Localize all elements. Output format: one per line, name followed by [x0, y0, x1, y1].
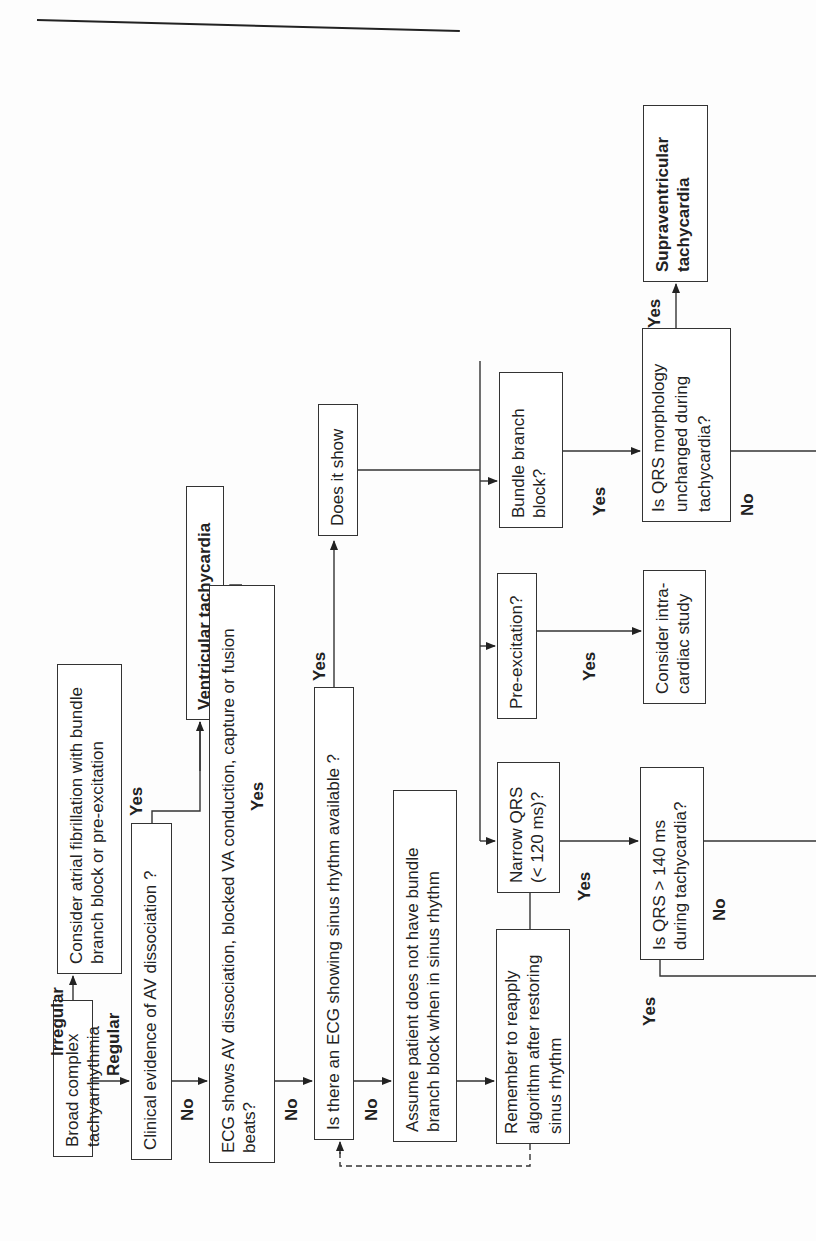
qrs-morph-node: Is QRS morphology unchanged during tachy…	[642, 328, 731, 522]
pre-excitation-yes-label: Yes	[580, 652, 600, 681]
svt-text: Supraventricular tachycardia	[653, 137, 693, 272]
remember-text: Remember to reapply algorithm after rest…	[502, 954, 565, 1134]
ecg-av-text: ECG shows AV dissociation, blocked VA co…	[219, 628, 259, 1153]
clinical-no-label: No	[178, 1098, 198, 1121]
consider-af-node: Consider atrial fibrillation with bundle…	[57, 664, 122, 974]
pre-excitation-text: Pre-excitation?	[507, 596, 526, 709]
ecg-av-yes-label: Yes	[248, 782, 268, 811]
qrs-140-no-label: No	[710, 898, 730, 921]
start-node-text: Broad complex tachyarrhythmia	[63, 1026, 103, 1147]
ecg-sinus-text: Is there an ECG showing sinus rhythm ava…	[324, 754, 343, 1130]
assume-patient-text: Assume patient does not have bundle bran…	[403, 848, 443, 1132]
assume-patient-node: Assume patient does not have bundle bran…	[393, 790, 457, 1142]
does-it-show-text: Does it show	[328, 429, 347, 526]
consider-intra-node: Consider intra-cardiac study	[643, 570, 706, 704]
ecg-sinus-no-label: No	[362, 1098, 382, 1121]
clinical-av-text: Clinical evidence of AV dissociation ?	[141, 871, 160, 1150]
irregular-label: Irregular	[48, 987, 68, 1056]
narrow-qrs-text: Narrow QRS (< 120 ms)?	[507, 787, 547, 883]
svt-outcome-node: Supraventricular tachycardia	[643, 105, 708, 282]
qrs-140-text: Is QRS > 140 ms during tachycardia?	[650, 802, 690, 950]
ecg-av-no-label: No	[282, 1098, 302, 1121]
ecg-av-node: ECG shows AV dissociation, blocked VA co…	[209, 585, 275, 1163]
clinical-av-node: Clinical evidence of AV dissociation ?	[131, 823, 172, 1160]
ecg-sinus-node: Is there an ECG showing sinus rhythm ava…	[314, 687, 354, 1140]
qrs-140-node: Is QRS > 140 ms during tachycardia?	[640, 767, 704, 960]
remember-node: Remember to reapply algorithm after rest…	[496, 929, 570, 1144]
consider-intra-text: Consider intra-cardiac study	[653, 583, 693, 695]
bundle-branch-node: Bundle branch block?	[499, 372, 563, 528]
qrs-morph-text: Is QRS morphology unchanged during tachy…	[649, 364, 714, 512]
ecg-sinus-yes-label: Yes	[310, 652, 330, 681]
qrs-morph-no-label: No	[738, 493, 758, 516]
narrow-qrs-yes-label: Yes	[575, 872, 595, 901]
flowchart: Broad complex tachyarrhythmia Consider a…	[0, 0, 816, 1241]
clinical-yes-label: Yes	[127, 787, 147, 816]
regular-label: Regular	[104, 1013, 124, 1076]
pre-excitation-node: Pre-excitation?	[497, 573, 537, 719]
narrow-qrs-node: Narrow QRS (< 120 ms)?	[497, 762, 560, 893]
qrs-morph-yes-label: Yes	[645, 299, 665, 328]
does-it-show-node: Does it show	[318, 404, 358, 536]
bundle-branch-yes-label: Yes	[590, 487, 610, 516]
consider-af-text: Consider atrial fibrillation with bundle…	[67, 687, 107, 964]
qrs-140-yes-label: Yes	[640, 997, 660, 1026]
bundle-branch-text: Bundle branch block?	[509, 408, 549, 518]
